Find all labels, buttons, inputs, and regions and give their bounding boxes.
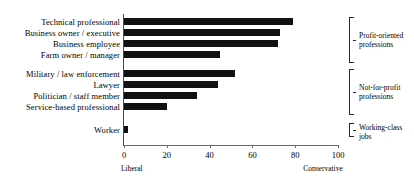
group-label-line1: Working-class — [359, 123, 402, 132]
category-label: Farm owner / manager — [0, 51, 120, 60]
x-axis-tick-label: 20 — [163, 150, 172, 160]
bar — [124, 81, 218, 88]
x-axis-tick — [124, 145, 125, 148]
group-label-line1: Not-for-profit — [359, 83, 401, 92]
x-axis-tick — [252, 145, 253, 148]
bracket-nub-icon — [353, 40, 356, 41]
x-axis-tick — [338, 145, 339, 148]
category-label: Lawyer — [0, 81, 120, 90]
x-axis-line — [123, 145, 338, 146]
category-label: Technical professional — [0, 18, 120, 27]
bar — [124, 126, 128, 133]
x-axis-tick-label: 100 — [332, 150, 345, 160]
axis-endpoint-label-conservative: Conservative — [303, 164, 343, 173]
category-label: Service-based professional — [0, 103, 120, 112]
group-label-line2: jobs — [359, 132, 372, 141]
bar — [124, 70, 235, 77]
bar — [124, 92, 197, 99]
category-label: Business employee — [0, 40, 120, 49]
bracket-nub-icon — [353, 92, 356, 93]
x-axis-tick-label: 0 — [122, 150, 126, 160]
group-label-line2: professions — [359, 40, 393, 49]
bar — [124, 103, 167, 110]
x-axis-tick-label: 80 — [291, 150, 300, 160]
bar — [124, 29, 280, 36]
x-axis-tick-label: 40 — [205, 150, 214, 160]
group-brackets: Profit-orientedprofessionsNot-for-profit… — [349, 0, 414, 183]
category-label: Military / law enforcement — [0, 70, 120, 79]
x-axis-tick-label: 60 — [248, 150, 257, 160]
bar — [124, 51, 220, 58]
category-label: Worker — [0, 126, 120, 135]
x-axis-tick — [295, 145, 296, 148]
x-axis-tick — [210, 145, 211, 148]
bracket-nub-icon — [353, 130, 356, 131]
category-axis-labels: Technical professionalBusiness owner / e… — [0, 0, 120, 183]
bar — [124, 40, 278, 47]
group-label-line2: professions — [359, 92, 393, 101]
category-label: Business owner / executive — [0, 29, 120, 38]
group-label-line1: Profit-oriented — [359, 31, 403, 40]
bar — [124, 18, 293, 25]
axis-endpoint-label-liberal: Liberal — [121, 164, 143, 173]
horizontal-bar-chart: Technical professionalBusiness owner / e… — [0, 0, 414, 183]
x-axis-tick — [167, 145, 168, 148]
plot-area: 020406080100 Liberal Conservative — [124, 14, 338, 145]
category-label: Politician / staff member — [0, 92, 120, 101]
